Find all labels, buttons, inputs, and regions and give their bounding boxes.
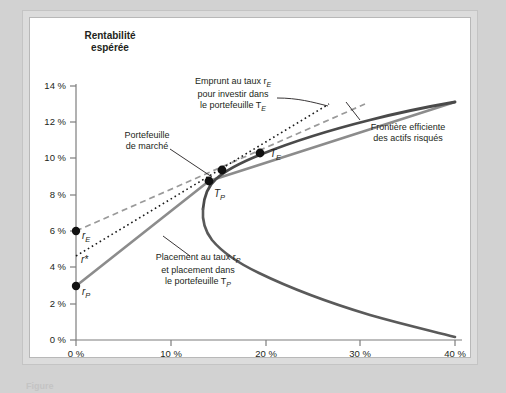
point-label-TP-sub: P (220, 193, 225, 202)
point-label-rE: rE (82, 230, 90, 245)
figure-page: Rentabilité espérée 14 % 12 % 10 % 8 % 6… (0, 0, 506, 393)
annotation-borrowing-sub1: E (266, 81, 271, 88)
annotation-lending-sub1: P (236, 257, 241, 264)
annotation-lending: Placement au taux rP et placement dans l… (134, 252, 262, 289)
x-tick-0: 0 % (56, 348, 96, 358)
y-axis-title: Rentabilité espérée (60, 30, 160, 54)
annotation-borrowing-sub3: E (261, 104, 266, 111)
annotation-borrowing-line3: le portefeuille T (200, 100, 261, 110)
annotation-lending-line3: le portefeuille T (165, 276, 226, 286)
annotation-frontier-line2: des actifs risqués (373, 133, 443, 143)
y-tick-8: 8 % (32, 189, 66, 200)
annotation-leaders (163, 98, 360, 256)
figure-caption: Figure (26, 381, 486, 393)
annotation-lending-line1: Placement au taux r (156, 252, 236, 262)
series-efficient-frontier-upper (203, 102, 455, 209)
annotation-efficient-frontier: Frontière efficiente des actifs risqués (348, 122, 468, 143)
annotation-lending-sub3: P (226, 280, 231, 287)
y-axis-title-line2: espérée (91, 42, 129, 53)
chart-panel: Rentabilité espérée 14 % 12 % 10 % 8 % 6… (29, 17, 471, 358)
point-label-rE-sub: E (85, 235, 90, 244)
y-axis-title-line1: Rentabilité (84, 30, 135, 41)
x-tick-10: 10 % (151, 348, 191, 358)
y-tick-6: 6 % (32, 225, 66, 236)
point-label-rP: rP (82, 286, 90, 301)
point-market-portfolio (218, 166, 227, 175)
point-TP (205, 177, 214, 186)
annotation-borrowing: Emprunt au taux rE pour investir dans le… (178, 76, 288, 113)
chart-plot-area (30, 18, 471, 358)
point-rE (72, 227, 80, 235)
x-axis-ticks (76, 340, 455, 346)
point-label-TE: TE (270, 148, 281, 163)
annotation-borrowing-line1: Emprunt au taux r (195, 76, 267, 86)
point-TE (256, 149, 265, 158)
annotation-market-portfolio: Portefeuille de marché (102, 130, 192, 151)
y-tick-2: 2 % (32, 298, 66, 309)
series-rstar-line (76, 104, 329, 256)
point-label-rP-sub: P (85, 291, 90, 300)
annotation-market-line1: Portefeuille (124, 130, 169, 140)
x-tick-30: 30 % (340, 348, 380, 358)
y-tick-12: 12 % (32, 116, 66, 127)
annotation-borrowing-line2: pour investir dans (197, 89, 268, 99)
figure-frame: Rentabilité espérée 14 % 12 % 10 % 8 % 6… (22, 10, 478, 365)
y-tick-0: 0 % (32, 334, 66, 345)
annotation-market-line2: de marché (126, 141, 169, 151)
annotation-frontier-line1: Frontière efficiente (371, 122, 445, 132)
point-label-rStar: r* (81, 254, 88, 266)
point-label-TE-sub: E (276, 153, 281, 162)
point-rP (72, 282, 80, 290)
x-tick-20: 20 % (246, 348, 286, 358)
point-label-TP: TP (214, 188, 225, 203)
x-tick-40: 40 % (435, 348, 471, 358)
y-tick-10: 10 % (32, 152, 66, 163)
y-tick-4: 4 % (32, 261, 66, 272)
annotation-lending-line2: et placement dans (161, 265, 235, 275)
y-tick-14: 14 % (32, 80, 66, 91)
y-axis-ticks (70, 86, 76, 340)
